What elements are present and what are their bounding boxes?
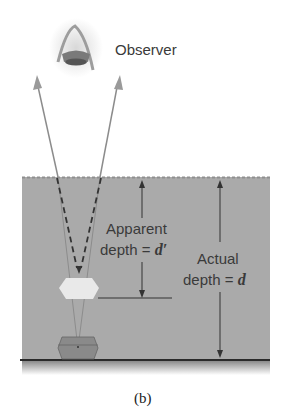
- apparent-depth-symbol: d′: [155, 241, 168, 258]
- figure-caption: (b): [134, 390, 152, 407]
- eye-icon: [49, 18, 103, 78]
- diagram-canvas: [0, 0, 285, 413]
- chest-object: [58, 337, 98, 359]
- refracted-ray-right: [100, 75, 123, 177]
- actual-label-prefix: depth =: [183, 271, 238, 288]
- virtual-image: [59, 278, 99, 299]
- actual-depth-symbol: d: [238, 271, 246, 288]
- apparent-label-line2: depth = d′: [100, 242, 167, 258]
- refracted-ray-left: [33, 75, 58, 177]
- apparent-label-prefix: depth =: [100, 241, 155, 258]
- observer-label: Observer: [115, 42, 177, 57]
- apparent-label-line1: Apparent: [106, 221, 167, 236]
- actual-label-line2: depth = d: [183, 272, 246, 288]
- actual-label-line1: Actual: [197, 251, 239, 266]
